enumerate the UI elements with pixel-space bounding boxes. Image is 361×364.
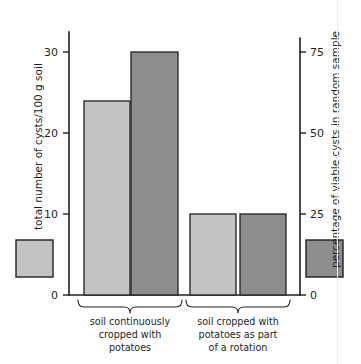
left-tick-label-30: 30	[44, 46, 58, 59]
group2-label-line2: potatoes as part	[199, 329, 278, 340]
legend-swatch-left	[16, 240, 53, 277]
group1-label-line2: cropped with	[99, 329, 161, 340]
group1-brace	[78, 300, 182, 313]
group1-label-line1: soil continuously	[90, 316, 171, 327]
left-tick-label-20: 20	[44, 127, 58, 140]
group2-brace	[186, 300, 290, 313]
chart-canvas: 30 20 10 0 total number of cysts/100 g s…	[0, 0, 361, 364]
left-tick-label-0: 0	[51, 289, 58, 302]
bar-group1-total-cysts	[84, 101, 130, 295]
bar-group2-viable-percentage	[240, 214, 286, 295]
right-tick-label-25: 25	[310, 208, 324, 221]
group1-label-line3: potatoes	[109, 342, 151, 353]
right-tick-label-0: 0	[310, 289, 317, 302]
bar-chart-figure: 30 20 10 0 total number of cysts/100 g s…	[0, 0, 361, 364]
left-tick-label-10: 10	[44, 208, 58, 221]
group2-label-line1: soil cropped with	[197, 316, 279, 327]
bar-group1-viable-percentage	[131, 52, 178, 295]
group2-label-line3: of a rotation	[209, 342, 268, 353]
bar-group2-total-cysts	[190, 214, 236, 295]
page-edge-line	[337, 0, 338, 364]
left-axis-title: total number of cysts/100 g soil	[32, 63, 44, 230]
right-tick-label-50: 50	[310, 127, 324, 140]
right-tick-label-75: 75	[310, 46, 324, 59]
right-axis-title: percentage of viable cysts in random sam…	[329, 31, 341, 268]
